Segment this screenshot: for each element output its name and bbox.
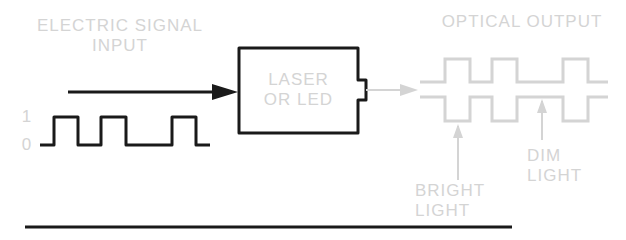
bright-light-pointer [453, 124, 463, 180]
optical-wave-bottom [420, 97, 608, 121]
input-arrow [68, 84, 238, 100]
output-title: OPTICAL OUTPUT [418, 12, 626, 32]
bright-light-line1: BRIGHT [415, 181, 485, 201]
bright-light-label: BRIGHT LIGHT [415, 181, 485, 221]
bright-light-line2: LIGHT [415, 201, 485, 221]
dim-light-line2: LIGHT [527, 166, 582, 186]
input-title-line1: ELECTRIC SIGNAL [20, 16, 220, 36]
input-title-line2: INPUT [20, 36, 220, 56]
input-title: ELECTRIC SIGNAL INPUT [20, 16, 220, 56]
diagram-canvas: ELECTRIC SIGNAL INPUT 1 0 LASER OR LED O… [0, 0, 626, 240]
optical-arrow [366, 84, 418, 96]
level-low-label: 0 [20, 135, 34, 155]
optical-wave-top [420, 59, 608, 82]
level-high-label: 1 [20, 107, 34, 127]
box-label-line1: LASER [239, 70, 358, 90]
dim-light-label: DIM LIGHT [527, 146, 582, 186]
box-label: LASER OR LED [239, 70, 358, 110]
input-square-wave [40, 117, 210, 145]
dim-light-pointer [537, 99, 547, 140]
dim-light-line1: DIM [527, 146, 582, 166]
box-label-line2: OR LED [239, 90, 358, 110]
